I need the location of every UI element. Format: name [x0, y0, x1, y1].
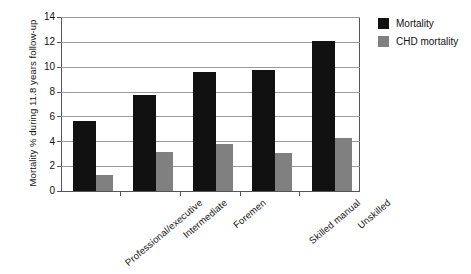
bar-mortality: [312, 41, 335, 191]
y-tick-label: 12: [33, 37, 55, 47]
x-category-label: Unskilled: [355, 197, 392, 231]
bar-chd-mortality: [156, 152, 173, 191]
x-category-label: Skilled manual: [307, 197, 362, 246]
x-tick-mark: [120, 192, 121, 196]
y-tick-mark: [57, 42, 61, 43]
legend-swatch-mortality-icon: [378, 18, 389, 29]
legend-item-chd-mortality: CHD mortality: [378, 36, 458, 47]
bar-chd-mortality: [275, 153, 292, 191]
bar-chd-mortality: [335, 138, 352, 191]
y-tick-mark: [57, 166, 61, 167]
y-tick-label: 14: [33, 12, 55, 22]
x-tick-mark: [240, 192, 241, 196]
y-tick-label: 0: [33, 186, 55, 196]
y-tick-label: 10: [33, 62, 55, 72]
x-category-label: Foremen: [231, 197, 268, 230]
bar-chd-mortality: [216, 144, 233, 191]
y-tick-mark: [57, 17, 61, 18]
bar-mortality: [73, 121, 96, 191]
gridline: [61, 17, 360, 18]
y-tick-label: 8: [33, 87, 55, 97]
x-axis-line: [61, 191, 360, 192]
y-tick-label: 6: [33, 112, 55, 122]
legend-item-mortality: Mortality: [378, 18, 458, 29]
bar-mortality: [133, 95, 156, 191]
y-tick-mark: [57, 92, 61, 93]
legend-swatch-chd-mortality-icon: [378, 36, 389, 47]
legend-label-mortality: Mortality: [396, 18, 434, 29]
x-tick-mark: [180, 192, 181, 196]
bar-chd-mortality: [96, 175, 113, 191]
y-tick-mark: [57, 116, 61, 117]
y-tick-mark: [57, 67, 61, 68]
chart-legend: Mortality CHD mortality: [378, 18, 458, 54]
bar-mortality: [252, 70, 275, 191]
bar-mortality: [193, 72, 216, 191]
x-tick-mark: [299, 192, 300, 196]
y-tick-mark: [57, 141, 61, 142]
legend-label-chd-mortality: CHD mortality: [396, 36, 458, 47]
bar-chart-figure: Mortality % during 11.8 years follow-up …: [0, 0, 471, 274]
y-tick-label: 2: [33, 161, 55, 171]
y-tick-label: 4: [33, 137, 55, 147]
plot-area: [61, 17, 360, 191]
